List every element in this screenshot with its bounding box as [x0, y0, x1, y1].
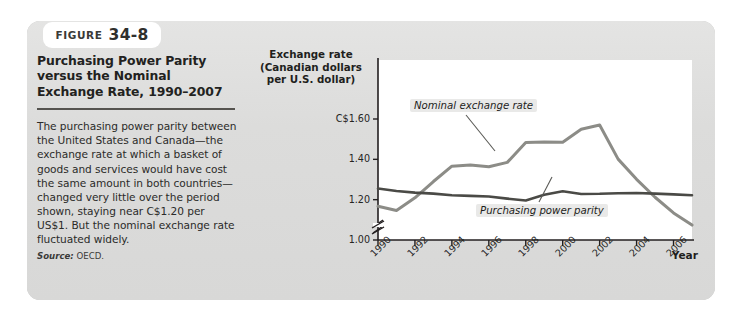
y-tick-label: 1.40 — [310, 153, 370, 164]
figure-badge-word: Figure — [55, 29, 102, 41]
figure-text-column: Purchasing Power Parity versus the Nomin… — [37, 53, 237, 262]
title-divider — [37, 108, 235, 110]
figure-number-badge: Figure 34-8 — [43, 22, 161, 48]
callout-purchasing-power-parity: Purchasing power parity — [476, 204, 608, 217]
chart-area: Exchange rate (Canadian dollars per U.S.… — [252, 44, 704, 276]
figure-source: Source: OECD. — [37, 251, 237, 262]
y-tick-label: 1.00 — [310, 234, 370, 245]
figure-badge-number: 34-8 — [109, 26, 149, 44]
figure-caption-body: The purchasing power parity between the … — [37, 119, 237, 246]
source-label: Source: — [37, 251, 74, 261]
x-axis-title: Year — [672, 249, 698, 261]
callout-nominal-exchange-rate: Nominal exchange rate — [410, 99, 537, 112]
y-tick-label: 1.20 — [310, 194, 370, 205]
figure-container: Figure 34-8 Purchasing Power Parity vers… — [0, 0, 742, 322]
y-tick-label: C$1.60 — [310, 113, 370, 124]
source-value: OECD. — [77, 251, 105, 261]
figure-title: Purchasing Power Parity versus the Nomin… — [37, 53, 237, 99]
